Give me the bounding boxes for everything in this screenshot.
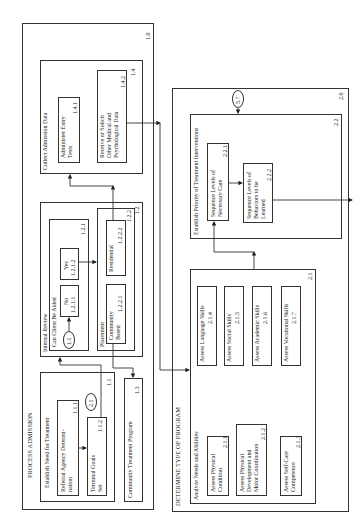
connector-lines [0,0,354,517]
